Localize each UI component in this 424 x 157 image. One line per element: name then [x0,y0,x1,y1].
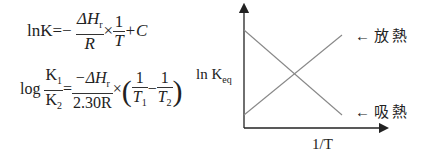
left-arrow-icon: ← [355,28,370,44]
y-axis-label: ln Keq [196,66,232,85]
y-label-text: ln K [196,66,222,82]
exothermic-line [244,30,342,115]
endothermic-line [244,35,342,115]
exothermic-label: ← 放熱 [355,24,410,45]
x-axis-label: 1/T [312,136,333,153]
exothermic-text: 放熱 [374,27,410,45]
left-arrow-icon: ← [355,104,370,120]
endothermic-text: 吸熱 [374,103,410,121]
x-label-text: 1/T [312,136,333,152]
endothermic-label: ← 吸熱 [355,100,410,121]
y-label-sub: eq [222,74,231,85]
